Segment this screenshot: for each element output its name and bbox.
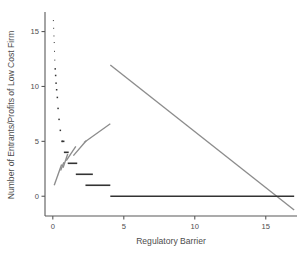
data-point — [55, 75, 57, 77]
y-tick-label: 10 — [31, 82, 39, 91]
y-tick-label: 0 — [35, 192, 39, 201]
y-tick-label: 15 — [31, 27, 39, 36]
data-point — [55, 82, 57, 84]
plot-background — [0, 0, 305, 260]
y-tick-label: 5 — [35, 137, 39, 146]
data-point — [53, 20, 54, 21]
chart-figure: 051015 051015 Regulatory Barrier Number … — [0, 0, 305, 260]
x-axis-title: Regulatory Barrier — [136, 236, 206, 246]
y-axis-title: Number of Entrants/Profits of Low Cost F… — [6, 31, 16, 200]
x-tick-label: 0 — [51, 222, 55, 231]
data-point — [53, 28, 54, 29]
data-point — [53, 35, 54, 36]
regulatory-barrier-plot: 051015 051015 Regulatory Barrier Number … — [0, 0, 305, 260]
data-point — [54, 42, 55, 43]
data-point — [57, 97, 59, 99]
data-point — [61, 141, 63, 143]
data-point — [54, 60, 55, 61]
data-point — [54, 68, 56, 70]
data-point — [60, 130, 62, 132]
data-point — [56, 89, 58, 91]
data-point — [54, 51, 55, 52]
data-point — [57, 108, 59, 110]
x-tick-label: 15 — [262, 222, 270, 231]
x-tick-label: 10 — [191, 222, 199, 231]
x-tick-label: 5 — [122, 222, 126, 231]
data-point — [58, 119, 60, 121]
